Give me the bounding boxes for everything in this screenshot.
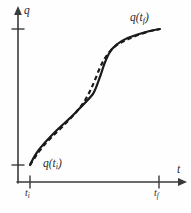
q-final-base: q(t <box>130 11 143 23</box>
actual-path-solid-curve <box>30 29 160 165</box>
varied-path-dashed-curve <box>30 29 160 165</box>
x-tick-label-ti: ti <box>25 188 30 200</box>
q-initial-annotation: q(ti) <box>43 158 62 172</box>
physics-figure-canvas: q t ti tf q(ti) q(tf) <box>0 0 191 213</box>
y-axis-label: q <box>24 5 30 17</box>
q-initial-base: q(t <box>43 157 56 169</box>
plot-svg <box>0 0 191 213</box>
x-tick-label-tf: tf <box>154 188 159 200</box>
x-axis-label: t <box>177 164 180 176</box>
q-final-tail: ) <box>145 11 149 23</box>
x-tick-tf-subscript: f <box>157 192 159 200</box>
x-tick-ti-subscript: i <box>28 192 30 200</box>
x-axis-arrow-icon <box>178 178 187 186</box>
y-axis-arrow-icon <box>14 6 22 15</box>
q-initial-tail: ) <box>58 157 62 169</box>
q-final-annotation: q(tf) <box>130 12 149 26</box>
